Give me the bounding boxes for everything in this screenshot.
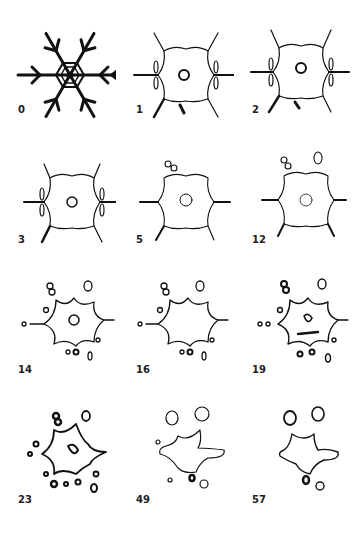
melting-snowflake-icon [236, 260, 352, 380]
snowflake-outline-icon [0, 130, 116, 250]
panel-57: 57 [236, 390, 352, 510]
panel-label: 49 [136, 494, 150, 505]
panel-label: 57 [252, 494, 266, 505]
snowflake-outline-icon [236, 0, 352, 120]
panel-1: 1 [118, 0, 234, 120]
panel-label: 14 [18, 364, 32, 375]
panel-label: 16 [136, 364, 150, 375]
snowflake-outline-icon [118, 130, 234, 250]
panel-16: 16 [118, 260, 234, 380]
panel-label: 19 [252, 364, 266, 375]
dendritic-snowflake-icon [0, 0, 116, 120]
panel-12: 12 [236, 130, 352, 250]
panel-label: 0 [18, 104, 25, 115]
panel-23: 23 [0, 390, 116, 510]
panel-14: 14 [0, 260, 116, 380]
melting-snowflake-icon [118, 260, 234, 380]
melting-snowflake-icon [236, 390, 352, 510]
panel-label: 1 [136, 104, 143, 115]
melting-snowflake-icon [0, 260, 116, 380]
panel-5: 5 [118, 130, 234, 250]
panel-49: 49 [118, 390, 234, 510]
panel-label: 5 [136, 234, 143, 245]
snowflake-outline-icon [118, 0, 234, 120]
panel-label: 12 [252, 234, 266, 245]
panel-label: 3 [18, 234, 25, 245]
melting-snowflake-icon [0, 390, 116, 510]
panel-label: 2 [252, 104, 259, 115]
panel-3: 3 [0, 130, 116, 250]
melting-snowflake-icon [118, 390, 234, 510]
panel-label: 23 [18, 494, 32, 505]
panel-0: 0 [0, 0, 116, 120]
panel-19: 19 [236, 260, 352, 380]
panel-2: 2 [236, 0, 352, 120]
snowflake-outline-icon [236, 130, 352, 250]
